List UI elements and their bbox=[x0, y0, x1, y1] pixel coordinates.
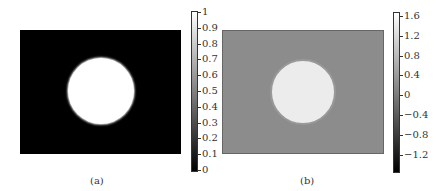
colorbar-tick: −0.8 bbox=[404, 130, 428, 140]
colorbar-tick: −0.4 bbox=[404, 110, 428, 120]
colorbar-tick: −1.2 bbox=[404, 150, 428, 160]
colorbar-tick: 0.3 bbox=[202, 118, 218, 128]
caption-a: (a) bbox=[90, 175, 104, 186]
heatmap-a bbox=[20, 30, 181, 154]
circle-a bbox=[68, 58, 134, 124]
colorbar-tick: 0.1 bbox=[202, 149, 218, 159]
colorbar-tick: 0.9 bbox=[202, 23, 218, 33]
colorbar-a bbox=[191, 11, 198, 172]
colorbar-tick: 1 bbox=[202, 7, 208, 17]
colorbar-tick: 1.6 bbox=[404, 11, 420, 21]
colorbar-tick: 0 bbox=[202, 165, 208, 175]
heatmap-b bbox=[222, 30, 384, 154]
colorbar-b bbox=[393, 12, 400, 173]
colorbar-tick: 0 bbox=[404, 90, 410, 100]
caption-b: (b) bbox=[300, 175, 314, 186]
colorbar-tick: 0.4 bbox=[404, 70, 420, 80]
circle-b bbox=[270, 59, 336, 125]
colorbar-tick: 0.5 bbox=[202, 86, 218, 96]
colorbar-tick: 1.2 bbox=[404, 31, 420, 41]
colorbar-tick: 0.2 bbox=[202, 133, 218, 143]
colorbar-tick: 0.6 bbox=[202, 70, 218, 80]
colorbar-tick: 0.8 bbox=[202, 39, 218, 49]
colorbar-tick: 0.4 bbox=[202, 102, 218, 112]
colorbar-tick: 0.7 bbox=[202, 54, 218, 64]
colorbar-tick: 0.8 bbox=[404, 51, 420, 61]
